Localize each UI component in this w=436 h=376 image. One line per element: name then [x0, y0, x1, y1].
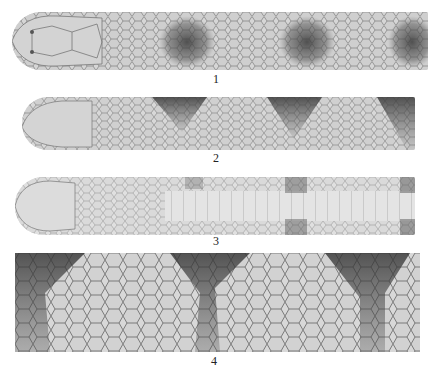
figure-3-ventral-view: [15, 177, 415, 235]
figure-label-1: 1: [206, 72, 226, 87]
snake-skin-illustration: [15, 177, 415, 235]
ventral-scutes: [165, 191, 415, 221]
dorsal-blotch: [159, 16, 215, 68]
figure-label-4: 4: [204, 354, 224, 369]
figure-2-lateral-view: [22, 97, 415, 150]
snake-skin-illustration: [15, 253, 420, 352]
nostril-icon: [30, 30, 34, 34]
snake-skin-illustration: [22, 97, 415, 150]
dorsal-blotch: [279, 16, 335, 68]
snake-skin-illustration: [12, 12, 428, 70]
figure-label-3: 3: [206, 234, 226, 249]
figure-label-2: 2: [206, 151, 226, 166]
figure-4-midbody-view: [15, 253, 420, 352]
figure-1-dorsal-view: [12, 12, 428, 70]
